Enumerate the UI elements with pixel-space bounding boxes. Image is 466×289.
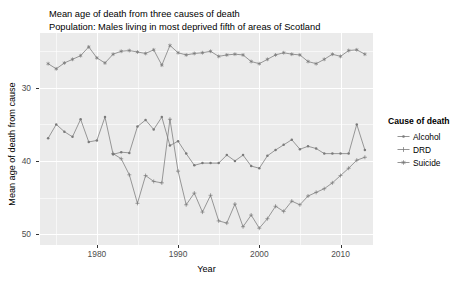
data-point	[96, 139, 99, 142]
data-point	[314, 190, 318, 194]
plot-panel	[40, 33, 373, 245]
data-point	[234, 160, 237, 163]
dash-marker-icon	[397, 130, 410, 143]
data-point	[307, 145, 310, 148]
y-tick-mark	[36, 88, 39, 89]
series-drd	[111, 117, 367, 230]
data-point	[193, 164, 196, 167]
data-point	[55, 123, 58, 126]
data-point	[291, 138, 294, 141]
data-point	[331, 152, 334, 155]
data-point	[152, 48, 155, 52]
y-tick-mark	[36, 161, 39, 162]
chart-figure: Mean age of death from three causes of d…	[0, 0, 466, 289]
x-tick-label: 2010	[331, 249, 350, 259]
series-alcohol	[47, 116, 366, 170]
data-point	[63, 130, 66, 133]
data-point	[339, 152, 342, 155]
data-point	[87, 141, 90, 144]
data-point	[169, 144, 172, 147]
data-point	[63, 61, 66, 65]
plus-marker-icon	[397, 143, 410, 156]
data-point	[79, 118, 82, 121]
data-point	[160, 63, 163, 67]
legend-item-drd[interactable]: DRD	[397, 143, 466, 156]
legend: Cause of death AlcoholDRDSuicide	[388, 116, 466, 169]
data-point	[250, 165, 253, 168]
data-point	[46, 62, 49, 66]
data-point	[111, 152, 115, 156]
data-point	[282, 144, 285, 147]
data-point	[47, 137, 50, 140]
data-point	[71, 57, 74, 61]
data-point	[274, 149, 277, 152]
data-point	[55, 67, 58, 71]
x-axis-title: Year	[0, 264, 413, 274]
data-point	[356, 123, 359, 126]
x-tick-label: 2000	[250, 249, 269, 259]
data-point	[363, 155, 367, 159]
legend-items: AlcoholDRDSuicide	[388, 130, 466, 169]
data-point	[226, 154, 229, 157]
data-point	[315, 147, 318, 150]
x-tick-mark	[97, 245, 98, 248]
data-point	[160, 181, 164, 185]
star-marker-icon	[397, 156, 410, 169]
data-point	[127, 173, 131, 177]
y-tick-mark	[36, 234, 39, 235]
legend-item-alcohol[interactable]: Alcohol	[397, 130, 466, 143]
data-point	[299, 148, 302, 151]
data-point	[233, 202, 237, 206]
data-point	[266, 155, 269, 158]
legend-item-suicide[interactable]: Suicide	[397, 156, 466, 169]
legend-item-label: Suicide	[413, 158, 440, 168]
data-point	[136, 125, 139, 128]
data-point	[177, 140, 180, 143]
data-point	[161, 116, 164, 119]
data-point	[217, 162, 220, 165]
chart-title-line-1: Mean age of death from three causes of d…	[49, 8, 320, 21]
data-point	[266, 57, 269, 61]
x-tick-label: 1990	[169, 249, 188, 259]
data-point	[71, 136, 74, 139]
data-point	[185, 152, 188, 155]
data-point	[217, 219, 221, 223]
data-point	[323, 152, 326, 155]
y-axis-title: Mean age of death from cause	[7, 38, 17, 250]
data-point	[209, 162, 212, 165]
data-point	[176, 169, 180, 173]
data-point	[128, 152, 131, 155]
x-tick-label: 1980	[88, 249, 107, 259]
data-point	[258, 167, 261, 170]
legend-item-label: DRD	[413, 145, 431, 155]
series-line	[48, 117, 365, 168]
data-point	[119, 157, 123, 161]
data-point	[120, 151, 123, 154]
data-point	[201, 162, 204, 165]
chart-title: Mean age of death from three causes of d…	[49, 8, 320, 33]
data-point	[347, 152, 350, 155]
data-series-layer	[40, 33, 373, 245]
data-point	[152, 128, 155, 131]
data-point	[242, 154, 245, 157]
data-point	[200, 210, 204, 214]
data-point	[323, 57, 326, 61]
x-tick-mark	[178, 245, 179, 248]
data-point	[168, 117, 172, 121]
x-tick-mark	[341, 245, 342, 248]
legend-item-label: Alcohol	[413, 132, 440, 142]
series-suicide	[46, 44, 366, 71]
data-point	[209, 193, 213, 197]
data-point	[144, 119, 147, 122]
data-point	[104, 116, 107, 119]
data-point	[364, 149, 367, 152]
data-point	[135, 201, 139, 205]
series-line	[113, 119, 365, 228]
data-point	[225, 221, 229, 225]
chart-title-line-2: Population: Males living in most deprive…	[49, 21, 320, 34]
data-point	[363, 52, 366, 56]
data-point	[274, 204, 278, 208]
x-tick-mark	[259, 245, 260, 248]
legend-title: Cause of death	[388, 116, 466, 126]
